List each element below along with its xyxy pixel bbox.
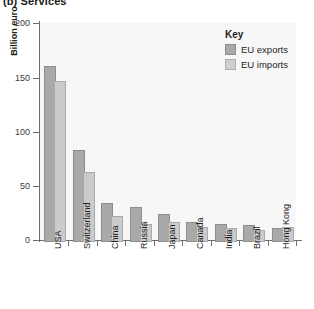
x-tick-8 <box>268 241 269 246</box>
y-tick-150 <box>33 78 39 79</box>
x-tick-9 <box>296 241 297 246</box>
services-bar-chart: (b) Services Billion euro 0 50 100 150 2… <box>0 0 314 309</box>
x-axis-label-usa: USA <box>53 230 63 249</box>
x-axis-label-hong-kong: Hong Kong <box>281 204 291 249</box>
y-tick-200 <box>33 23 39 24</box>
legend-item-eu-exports: EU exports <box>225 44 288 55</box>
legend-swatch-imports-icon <box>225 59 236 70</box>
y-tick-50 <box>33 186 39 187</box>
x-axis-label-russia: Russia <box>139 221 149 249</box>
y-tick-0 <box>33 240 39 241</box>
y-tick-label-50: 50 <box>2 181 30 191</box>
x-tick-6 <box>211 241 212 246</box>
legend-title: Key <box>225 29 288 40</box>
y-axis-title: Billion euro <box>9 0 19 71</box>
x-tick-5 <box>182 241 183 246</box>
x-axis-label-india: India <box>224 229 234 249</box>
x-axis-label-canada: Canada <box>195 217 205 249</box>
x-axis-label-switzerland: Switzerland <box>82 202 92 249</box>
bar-usa-imports <box>54 81 66 242</box>
x-tick-1 <box>68 241 69 246</box>
x-tick-3 <box>125 241 126 246</box>
y-tick-100 <box>33 132 39 133</box>
x-tick-7 <box>239 241 240 246</box>
y-tick-label-150: 150 <box>2 73 30 83</box>
y-tick-label-100: 100 <box>2 127 30 137</box>
legend-label-eu-exports: EU exports <box>241 44 288 55</box>
x-axis-label-japan: Japan <box>167 224 177 249</box>
x-tick-4 <box>154 241 155 246</box>
x-axis-label-china: China <box>110 225 120 249</box>
x-tick-2 <box>97 241 98 246</box>
legend-swatch-exports-icon <box>225 44 236 55</box>
legend-label-eu-imports: EU imports <box>241 59 288 70</box>
y-axis-line <box>39 21 40 242</box>
legend-item-eu-imports: EU imports <box>225 59 288 70</box>
y-tick-label-0: 0 <box>2 235 30 245</box>
x-axis-label-brazil: Brazil <box>252 226 262 249</box>
y-tick-label-200: 200 <box>2 18 30 28</box>
chart-legend: Key EU exports EU imports <box>225 29 288 74</box>
